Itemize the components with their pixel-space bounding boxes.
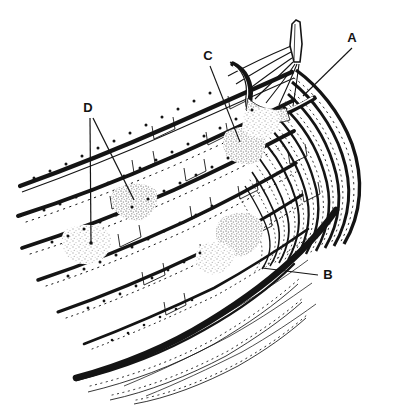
label-A: A xyxy=(347,30,357,45)
label-C: C xyxy=(203,48,213,63)
leader-endpoint-D1 xyxy=(89,241,93,245)
label-D: D xyxy=(83,100,92,115)
figure-root: A B C D xyxy=(0,0,397,406)
label-B: B xyxy=(323,267,332,282)
hull-diagram: A B C D xyxy=(0,0,397,406)
stem-post xyxy=(290,20,302,62)
